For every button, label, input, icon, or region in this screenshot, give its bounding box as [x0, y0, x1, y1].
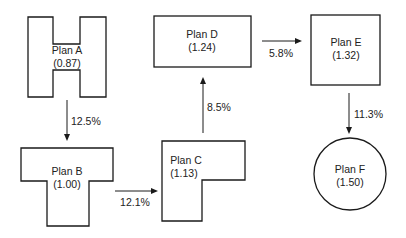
node-name: Plan B	[52, 165, 83, 177]
node-plan-c: Plan C (1.13)	[162, 141, 245, 221]
node-name: Plan D	[186, 28, 218, 40]
edge-b-to-c: 12.1%	[115, 188, 158, 208]
arrowhead-icon	[346, 127, 352, 134]
node-name: Plan F	[335, 163, 365, 175]
edge-label: 5.8%	[269, 47, 293, 59]
arrowhead-icon	[295, 38, 302, 44]
edge-label: 12.5%	[71, 115, 101, 127]
node-plan-d: Plan D (1.24)	[154, 16, 251, 67]
edge-a-to-b: 12.5%	[64, 100, 101, 141]
edge-c-to-d: 8.5%	[200, 77, 231, 133]
edge-d-to-e: 5.8%	[262, 38, 302, 59]
node-value: (1.24)	[188, 41, 215, 53]
node-value: (1.32)	[332, 49, 359, 61]
node-value: (1.50)	[336, 176, 363, 188]
node-value: (1.00)	[53, 178, 80, 190]
node-value: (0.87)	[53, 57, 80, 69]
node-plan-b: Plan B (1.00)	[21, 148, 113, 226]
edge-label: 8.5%	[207, 101, 231, 113]
node-plan-e: Plan E (1.32)	[311, 15, 380, 85]
node-name: Plan E	[331, 36, 362, 48]
arrowhead-icon	[64, 134, 70, 141]
node-name: Plan C	[170, 154, 202, 166]
node-name: Plan A	[52, 44, 82, 56]
arrowhead-icon	[151, 188, 158, 194]
node-value: (1.13)	[170, 167, 197, 179]
edge-e-to-f: 11.3%	[346, 93, 383, 134]
node-plan-a: Plan A (0.87)	[28, 17, 106, 97]
l-shape	[162, 141, 245, 221]
arrowhead-icon	[200, 77, 206, 84]
node-plan-f: Plan F (1.50)	[314, 138, 386, 210]
edge-label: 11.3%	[354, 108, 383, 120]
plan-flow-diagram: Plan A (0.87) Plan B (1.00) Plan C (1.13…	[0, 0, 406, 238]
edge-label: 12.1%	[120, 196, 150, 208]
